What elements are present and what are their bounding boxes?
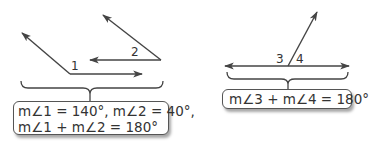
equation-line: m∠1 + m∠2 = 180° [18,119,168,135]
angle-1: 1 [22,33,142,74]
ray-arrow [22,33,70,74]
equation-line: m∠3 + m∠4 = 180° [229,91,369,107]
equation-line: m∠1 = 140°, m∠2 = 40°, [18,103,168,119]
linear-pair-3-4: 3 4 [225,12,349,66]
angle-label-2: 2 [131,45,139,59]
curly-brace [227,72,348,89]
angle-label-4: 4 [296,52,304,66]
angle-label-1: 1 [71,59,79,73]
angle-label-3: 3 [276,52,284,66]
equation-box-1: m∠1 = 140°, m∠2 = 40°, m∠1 + m∠2 = 180° [13,101,169,135]
equation-box-2: m∠3 + m∠4 = 180° [222,89,352,109]
angle-2: 2 [90,15,161,60]
curly-brace [21,81,163,101]
